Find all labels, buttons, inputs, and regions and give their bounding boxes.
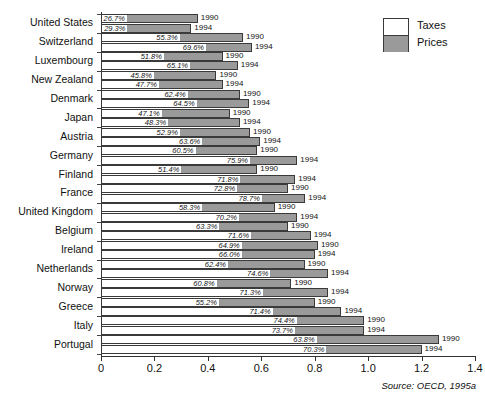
bar-group: 62.4%1990 [101, 260, 475, 269]
category-label: Greece [59, 301, 93, 312]
category-label: Luxembourg [35, 55, 93, 66]
bar-segment-prices [202, 137, 260, 146]
category-label: Finland [59, 169, 93, 180]
bar-year-label: 1990 [305, 259, 326, 269]
category-label: Netherlands [36, 263, 93, 274]
bar-group: 71.3%1994 [101, 288, 475, 297]
bar-value-label: 73.7% [101, 326, 295, 335]
category-axis-labels: United StatesSwitzerlandLuxembourgNew Ze… [0, 14, 97, 354]
category-label: Belgium [55, 225, 93, 236]
bar-value-label: 70.2% [101, 213, 239, 222]
bar-value-label: 71.3% [101, 288, 263, 297]
bar-segment-prices [297, 316, 364, 325]
bar-group: 64.9%1990 [101, 241, 475, 250]
bar-segment-prices [188, 90, 240, 99]
bar-group: 52.9%1990 [101, 128, 475, 137]
category-label: United States [30, 17, 93, 28]
bar-group: 47.7%1994 [101, 80, 475, 89]
bar-year-label: 1990 [291, 278, 312, 288]
bar-segment-prices [251, 231, 311, 240]
bar-year-label: 1994 [249, 98, 270, 108]
bar-group: 45.8%1990 [101, 71, 475, 80]
bar-segment-prices [168, 118, 240, 127]
bar-group: 70.3%1994 [101, 345, 475, 354]
x-axis-tick [208, 356, 209, 361]
bar-value-label: 78.7% [101, 194, 262, 203]
bar-value-label: 71.4% [101, 307, 273, 316]
bar-group: 71.6%1994 [101, 231, 475, 240]
x-axis-tick-label: 1.4 [467, 362, 482, 374]
bar-year-label: 1990 [315, 297, 336, 307]
chart-container: United StatesSwitzerlandLuxembourgNew Ze… [0, 0, 485, 402]
bar-segment-prices [164, 52, 223, 61]
bar-value-label: 71.8% [101, 175, 240, 184]
bar-year-label: 1994 [328, 268, 349, 278]
bar-group: 63.3%1990 [101, 222, 475, 231]
bar-value-label: 64.9% [101, 241, 242, 250]
bar-year-label: 1990 [257, 164, 278, 174]
category-label: United Kingdom [18, 206, 93, 217]
bar-segment-prices [127, 24, 191, 33]
bar-value-label: 45.8% [101, 71, 154, 80]
category-label: Portugal [54, 339, 93, 350]
bar-group: 73.7%1994 [101, 326, 475, 335]
bar-value-label: 62.4% [101, 90, 188, 99]
x-axis-tick-label: 0.4 [200, 362, 215, 374]
bar-group: 60.8%1990 [101, 279, 475, 288]
bar-group: 75.9%1994 [101, 156, 475, 165]
bar-group: 65.1%1994 [101, 61, 475, 70]
bar-segment-prices [219, 298, 315, 307]
category-label: Norway [57, 282, 93, 293]
bar-value-label: 63.6% [101, 137, 202, 146]
x-axis-tick [154, 356, 155, 361]
bar-segment-prices [127, 14, 198, 23]
bar-value-label: 55.3% [101, 33, 180, 42]
bar-value-label: 26.7% [101, 14, 127, 23]
category-label: Switzerland [39, 36, 93, 47]
bar-group: 63.6%1994 [101, 137, 475, 146]
bar-group: 58.3%1990 [101, 203, 475, 212]
bar-group: 71.4%1994 [101, 307, 475, 316]
bar-group: 66.0%1994 [101, 250, 475, 259]
bar-year-label: 1994 [305, 193, 326, 203]
bar-value-label: 63.8% [101, 335, 317, 344]
bar-value-label: 64.5% [101, 99, 197, 108]
bar-group: 55.2%1990 [101, 298, 475, 307]
source-note: Source: OECD, 1995a [381, 380, 476, 391]
bar-value-label: 70.3% [101, 345, 326, 354]
bar-year-label: 1994 [252, 42, 273, 52]
bar-segment-prices [273, 307, 342, 316]
bar-value-label: 74.6% [101, 269, 270, 278]
bar-year-label: 1990 [257, 145, 278, 155]
x-axis-line [101, 356, 475, 357]
bar-year-label: 1994 [238, 60, 259, 70]
bar-year-label: 1990 [275, 202, 296, 212]
bar-value-label: 65.1% [101, 61, 190, 70]
bar-value-label: 75.9% [101, 156, 250, 165]
x-axis-tick [368, 356, 369, 361]
bar-group: 63.8%1990 [101, 335, 475, 344]
bar-group: 64.5%1994 [101, 99, 475, 108]
bar-segment-prices [202, 203, 274, 212]
x-axis-tick-label: 0 [98, 362, 104, 374]
category-label: Ireland [61, 244, 93, 255]
bar-group: 48.3%1994 [101, 118, 475, 127]
category-label: Japan [64, 112, 93, 123]
y-axis-tick [97, 354, 101, 355]
bar-segment-prices [180, 33, 244, 42]
bar-segment-prices [181, 165, 257, 174]
x-axis-tick [475, 356, 476, 361]
bar-segment-prices [242, 241, 318, 250]
category-label: Germany [50, 150, 93, 161]
bar-value-label: 62.4% [101, 260, 228, 269]
bar-segment-prices [326, 345, 421, 354]
bar-segment-prices [295, 326, 364, 335]
bar-group: 74.4%1990 [101, 316, 475, 325]
bar-group: 62.4%1990 [101, 90, 475, 99]
bar-group: 60.5%1990 [101, 146, 475, 155]
x-axis-tick-label: 0.8 [307, 362, 322, 374]
bar-value-label: 74.4% [101, 316, 297, 325]
category-label: France [60, 187, 93, 198]
bar-year-label: 1994 [297, 155, 318, 165]
bar-segment-prices [237, 184, 288, 193]
